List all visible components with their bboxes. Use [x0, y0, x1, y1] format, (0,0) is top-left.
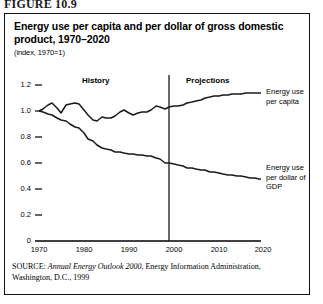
- series-label-energy-per-capita: Energy use per capita: [266, 87, 308, 106]
- y-axis-tick-marks: [35, 85, 42, 215]
- source-publication-title: Annual Energy Outlook 2000: [48, 262, 142, 271]
- y-tick-label-0-2: 0.2: [9, 210, 31, 219]
- series-line-energy-per-capita: [39, 93, 261, 121]
- figure-number: FIGURE 10.9: [4, 0, 77, 12]
- y-tick-label-1-0: 1.0: [9, 106, 31, 115]
- y-tick-label-0-4: 0.4: [9, 184, 31, 193]
- y-tick-label-0-8: 0.8: [9, 132, 31, 141]
- x-tick-label-1990: 1990: [114, 245, 144, 254]
- source-note: SOURCE: Annual Energy Outlook 2000, Ener…: [12, 262, 302, 283]
- x-tick-label-1970: 1970: [24, 245, 54, 254]
- y-tick-label-0-6: 0.6: [9, 158, 31, 167]
- x-tick-label-2000: 2000: [159, 245, 189, 254]
- series-line-energy-per-gdp: [39, 111, 261, 179]
- y-tick-label-0: 0: [9, 236, 31, 245]
- projections-label: Projections: [186, 76, 230, 85]
- chart-plot-area: 1.2 1.0 0.8 0.6 0.4 0.2 0 1970 1980 1990…: [4, 13, 310, 295]
- x-tick-label-2020: 2020: [248, 245, 278, 254]
- series-label-energy-per-gdp: Energy use per dollar of GDP: [266, 163, 308, 192]
- source-label: SOURCE:: [12, 262, 46, 271]
- history-label: History: [82, 76, 110, 85]
- x-tick-label-2010: 2010: [204, 245, 234, 254]
- y-tick-label-1-2: 1.2: [9, 80, 31, 89]
- x-tick-label-1980: 1980: [69, 245, 99, 254]
